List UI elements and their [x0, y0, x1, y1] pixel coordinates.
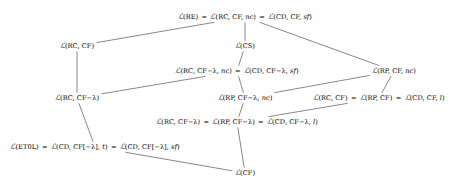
diagram-edge — [79, 103, 93, 141]
diagram-edge — [126, 152, 233, 171]
diagram-node: ℒ(RC, CF) — [59, 42, 95, 50]
diagram-edge — [268, 103, 347, 116]
diagram-node: ℒ(RE) = ℒ(RC, CF, nc) = ℒ(CD, CF, sf) — [177, 13, 313, 21]
diagram-node: ℒ(RP, CF−λ, nc) — [217, 94, 274, 102]
diagram-edge — [238, 127, 244, 167]
diagram-edge — [382, 76, 391, 92]
diagram-edge — [239, 76, 244, 92]
diagram-node: ℒ(RP, CF, nc) — [371, 67, 417, 75]
diagram-node: ℒ(RC, CF−λ) — [54, 94, 100, 102]
diagram-edge — [97, 22, 215, 42]
diagram-edge — [102, 76, 206, 94]
diagram-edge — [260, 22, 380, 65]
diagram-node: ℒ(RC, CF−λ) = ℒ(RP, CF−λ) = ℒ(CD, CF−λ, … — [155, 118, 319, 126]
diagram-node: ℒ(RC, CF) = ℒ(RP, CF) = ℒ(CD, CF, l) — [312, 94, 445, 102]
diagram-node: ℒ(ET0L) = ℒ(CD, CF[−λ], t) = ℒ(CD, CF[−λ… — [9, 143, 180, 151]
hasse-diagram: ℒ(RE) = ℒ(RC, CF, nc) = ℒ(CD, CF, sf)ℒ(R… — [0, 0, 468, 194]
diagram-edge — [239, 103, 243, 116]
diagram-node: ℒ(CS) — [234, 42, 256, 50]
diagram-node: ℒ(CF) — [234, 169, 256, 177]
diagram-edge — [239, 51, 244, 65]
diagram-edge — [274, 75, 369, 92]
diagram-node: ℒ(RC, CF−λ, nc) = ℒ(CD, CF−λ, sf) — [174, 67, 299, 75]
